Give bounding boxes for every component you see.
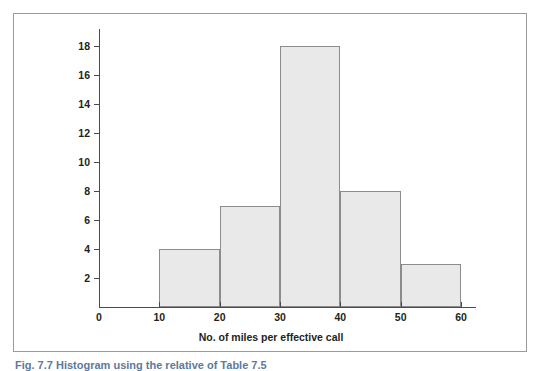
y-axis-tick xyxy=(94,133,99,134)
histogram-bar xyxy=(220,206,280,308)
x-axis-tick xyxy=(220,302,221,307)
y-axis-tick-label: 10 xyxy=(78,157,90,168)
histogram-plot: 24681012141618 0102030405060 No. of mile… xyxy=(14,14,528,353)
y-axis-tick-label: 4 xyxy=(84,244,90,255)
x-axis-tick xyxy=(340,302,341,307)
y-axis-tick xyxy=(94,104,99,105)
x-axis-tick-label: 40 xyxy=(320,312,360,323)
x-axis-tick xyxy=(99,302,100,307)
y-axis-tick xyxy=(94,278,99,279)
histogram-bar xyxy=(280,46,340,307)
y-axis-line xyxy=(99,29,100,308)
figure-frame: 24681012141618 0102030405060 No. of mile… xyxy=(13,13,527,352)
y-axis-tick xyxy=(94,220,99,221)
y-axis-tick xyxy=(94,162,99,163)
y-axis-tick-label: 18 xyxy=(78,41,90,52)
x-axis-tick-label: 0 xyxy=(79,312,119,323)
x-axis-tick xyxy=(461,302,462,307)
y-axis-tick-label: 12 xyxy=(78,128,90,139)
y-axis-tick-label: 14 xyxy=(78,99,90,110)
y-axis-tick-label: 8 xyxy=(84,186,90,197)
y-axis-tick xyxy=(94,46,99,47)
x-axis-line xyxy=(99,307,476,308)
x-axis-tick xyxy=(280,302,281,307)
histogram-bar xyxy=(340,191,400,307)
x-axis-tick xyxy=(159,302,160,307)
y-axis-tick xyxy=(94,191,99,192)
x-axis-tick-label: 50 xyxy=(381,312,421,323)
histogram-bar xyxy=(401,264,461,308)
x-axis-tick xyxy=(401,302,402,307)
x-axis-tick-label: 60 xyxy=(441,312,481,323)
x-axis-tick-label: 30 xyxy=(260,312,300,323)
x-axis-tick-label: 10 xyxy=(139,312,179,323)
x-axis-tick-label: 20 xyxy=(200,312,240,323)
figure-caption: Fig. 7.7 Histogram using the relative of… xyxy=(15,359,267,371)
y-axis-tick-label: 16 xyxy=(78,70,90,81)
y-axis-tick xyxy=(94,249,99,250)
y-axis-tick xyxy=(94,75,99,76)
y-axis-tick-label: 6 xyxy=(84,215,90,226)
y-axis-tick-label: 2 xyxy=(84,273,90,284)
x-axis-title: No. of miles per effective call xyxy=(14,331,528,343)
histogram-bar xyxy=(159,249,219,307)
